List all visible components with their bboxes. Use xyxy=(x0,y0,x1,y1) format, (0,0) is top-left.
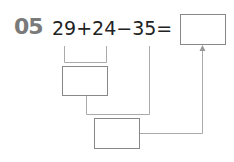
bracket-29-24 xyxy=(65,46,107,63)
arrow-up-icon xyxy=(200,45,206,51)
connector-lines xyxy=(0,0,234,162)
connector-step1-35 xyxy=(87,46,150,115)
